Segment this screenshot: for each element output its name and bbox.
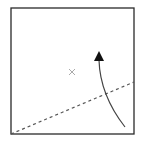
folding-diagram	[0, 0, 143, 145]
diagram-canvas	[0, 0, 143, 145]
